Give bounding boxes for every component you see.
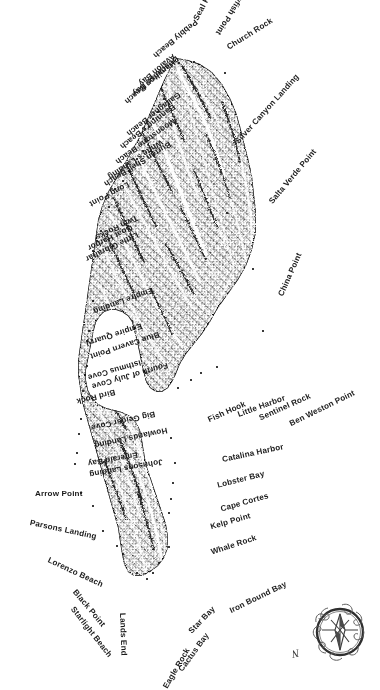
place-marker-dot (74, 463, 76, 465)
place-marker-dot (190, 379, 192, 381)
place-marker-dot (224, 72, 226, 74)
map-label[interactable]: China Point (277, 252, 303, 298)
place-marker-dot (78, 433, 80, 435)
place-marker-dot (122, 553, 124, 555)
place-marker-dot (158, 562, 160, 564)
place-marker-dot (174, 462, 176, 464)
map-label[interactable]: Iron Bound Bay (229, 580, 289, 615)
map-label[interactable]: Church Rock (226, 17, 274, 51)
place-marker-dot (168, 546, 170, 548)
place-marker-dot (226, 212, 228, 214)
place-marker-dot (152, 572, 154, 574)
map-label[interactable]: Salta Verde Point (268, 148, 318, 206)
map-label[interactable]: Cape Cortes (220, 492, 270, 513)
map-label[interactable]: Parsons Landing (29, 519, 97, 541)
map-label[interactable]: Kelp Point (209, 512, 251, 531)
place-marker-dot (76, 452, 78, 454)
place-marker-dot (82, 390, 84, 392)
map-label[interactable]: Lands End (118, 613, 128, 656)
map-label[interactable]: Pebbly Beach (151, 18, 198, 59)
place-marker-dot (92, 300, 94, 302)
place-marker-dot (177, 387, 179, 389)
place-marker-dot (170, 437, 172, 439)
place-marker-dot (86, 340, 88, 342)
place-marker-dot (262, 330, 264, 332)
place-marker-dot (193, 61, 195, 63)
place-marker-dot (108, 206, 110, 208)
place-marker-dot (170, 498, 172, 500)
place-marker-dot (88, 330, 90, 332)
compass-rose-icon (304, 596, 372, 668)
place-marker-dot (136, 572, 138, 574)
place-marker-dot (252, 268, 254, 270)
map-label[interactable]: Empire Landing (92, 286, 154, 315)
place-marker-dot (84, 374, 86, 376)
map-label[interactable]: Lorenzo Beach (46, 556, 104, 589)
place-marker-dot (172, 482, 174, 484)
map-label[interactable]: Lobster Bay (216, 470, 265, 490)
map-label[interactable]: Big Geiger Cove (90, 410, 155, 431)
place-marker-dot (86, 365, 88, 367)
place-marker-dot (168, 512, 170, 514)
map-label[interactable]: Arrow Point (35, 490, 83, 498)
place-marker-dot (146, 578, 148, 580)
place-marker-dot (200, 372, 202, 374)
map-label[interactable]: Seal Rocks (192, 0, 220, 22)
map-label[interactable]: Catalina Harbor (222, 443, 285, 464)
place-marker-dot (80, 418, 82, 420)
place-marker-dot (92, 505, 94, 507)
place-marker-dot (116, 545, 118, 547)
map-label[interactable]: Silver Canyon Landing (234, 73, 301, 146)
place-marker-dot (102, 530, 104, 532)
place-marker-dot (216, 366, 218, 368)
map-label[interactable]: Whale Rock (210, 534, 258, 556)
